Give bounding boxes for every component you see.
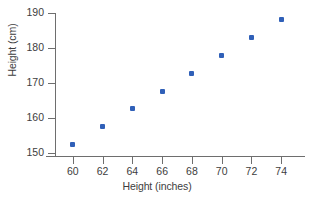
y-tick xyxy=(48,153,55,154)
x-tick xyxy=(192,157,193,164)
x-tick xyxy=(132,157,133,164)
y-tick xyxy=(48,48,55,49)
x-tick xyxy=(103,157,104,164)
x-tick-label: 72 xyxy=(236,166,266,177)
y-tick-label: 160 xyxy=(0,112,44,123)
y-axis-line xyxy=(55,13,56,157)
x-tick-label: 70 xyxy=(207,166,237,177)
x-tick-label: 62 xyxy=(88,166,118,177)
y-tick xyxy=(48,13,55,14)
x-tick-label: 64 xyxy=(117,166,147,177)
x-tick xyxy=(222,157,223,164)
x-axis-label: Height (inches) xyxy=(0,180,314,192)
data-point xyxy=(100,124,105,129)
plot-area: 150160170180190 6062646668707274 xyxy=(0,0,314,203)
x-tick-label: 74 xyxy=(266,166,296,177)
x-tick-label: 66 xyxy=(147,166,177,177)
data-point xyxy=(130,106,135,111)
y-tick xyxy=(48,118,55,119)
x-tick xyxy=(162,157,163,164)
x-tick-label: 68 xyxy=(177,166,207,177)
data-point xyxy=(189,71,194,76)
x-tick-label: 60 xyxy=(58,166,88,177)
y-tick xyxy=(48,83,55,84)
x-axis-line xyxy=(46,156,305,157)
x-tick xyxy=(251,157,252,164)
data-point xyxy=(249,35,254,40)
y-axis-label: Height (cm) xyxy=(6,5,18,95)
data-point xyxy=(70,142,75,147)
scatter-plot: 150160170180190 6062646668707274 Height … xyxy=(0,0,314,203)
data-point xyxy=(279,17,284,22)
y-tick-label: 150 xyxy=(0,147,44,158)
data-point xyxy=(160,89,165,94)
x-tick xyxy=(281,157,282,164)
data-point xyxy=(219,53,224,58)
x-tick xyxy=(73,157,74,164)
